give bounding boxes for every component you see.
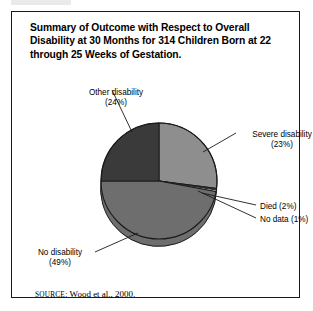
figure-source-citation: Wood et al., 2000. [68,289,136,299]
pie-label-no-disability-percent: (49%) [18,258,102,268]
pie-label-died-text: Died (2%) [260,202,313,212]
pie-label-no-disability: No disability (49%) [18,248,102,269]
figure-frame: Summary of Outcome with Respect to Overa… [11,11,300,298]
pie-label-no-disability-name: No disability [18,248,102,258]
pie-slice-other-disability [101,123,159,181]
pie-slice-no-disability [101,181,217,246]
figure-source-prefix: SOURCE [35,290,65,299]
pie-slice-severe-disability [159,123,217,188]
pie-label-other-disability: Other disability (24%) [74,88,158,109]
leader-line-severe-disability [203,133,236,152]
figure-source: SOURCE: Wood et al., 2000. [35,289,135,299]
pie-label-severe-disability: Severe disability (23%) [240,130,313,151]
pie-label-no-data-text: No data (1%) [260,215,313,225]
pie-label-other-disability-name: Other disability [74,88,158,98]
page-top-cutoff-artifact [11,0,71,5]
pie-label-other-disability-percent: (24%) [74,98,158,108]
pie-label-severe-disability-percent: (23%) [240,140,313,150]
pie-label-severe-disability-name: Severe disability [240,130,313,140]
pie-chart: Other disability (24%) Severe disability… [12,12,301,299]
pie-label-no-data: No data (1%) [260,215,313,225]
pie-label-died: Died (2%) [260,202,313,212]
